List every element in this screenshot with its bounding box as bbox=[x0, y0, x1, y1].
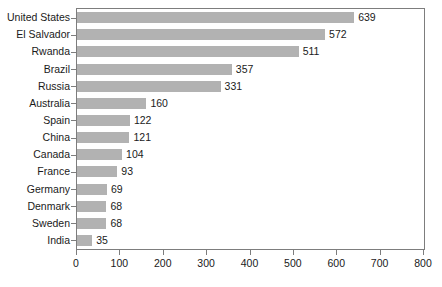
y-axis-tick bbox=[71, 206, 76, 207]
y-axis-tick bbox=[71, 120, 76, 121]
y-axis-label: India bbox=[0, 234, 70, 246]
bar bbox=[77, 184, 107, 195]
y-axis-tick bbox=[71, 240, 76, 241]
y-axis-label: Australia bbox=[0, 97, 70, 109]
y-axis-tick bbox=[71, 189, 76, 190]
bar-row: 68 bbox=[77, 218, 424, 229]
y-axis-category-labels: United StatesEl SalvadorRwandaBrazilRuss… bbox=[0, 9, 70, 249]
y-axis-label: Russia bbox=[0, 80, 70, 92]
bar-value-label: 93 bbox=[121, 164, 133, 178]
bar-value-label: 357 bbox=[236, 62, 254, 76]
x-axis-tick-label: 500 bbox=[284, 257, 302, 270]
x-axis-tick bbox=[76, 250, 77, 255]
y-axis-label: Rwanda bbox=[0, 45, 70, 57]
x-axis-tick-labels: 0100200300400500600700800 bbox=[76, 257, 425, 273]
y-axis-tick bbox=[71, 52, 76, 53]
y-axis-label: El Salvador bbox=[0, 28, 70, 40]
bar-row: 160 bbox=[77, 98, 424, 109]
y-axis-label: China bbox=[0, 131, 70, 143]
x-axis-tick-label: 800 bbox=[414, 257, 432, 270]
y-axis-label: Sweden bbox=[0, 217, 70, 229]
bar-row: 35 bbox=[77, 235, 424, 246]
bar-value-label: 639 bbox=[358, 10, 376, 24]
bar-value-label: 68 bbox=[110, 199, 122, 213]
x-axis-tick bbox=[119, 250, 120, 255]
y-axis-tick bbox=[71, 69, 76, 70]
y-axis-label: Canada bbox=[0, 148, 70, 160]
x-axis-tick bbox=[163, 250, 164, 255]
x-axis-tick-label: 100 bbox=[111, 257, 129, 270]
y-axis-label: France bbox=[0, 165, 70, 177]
bar bbox=[77, 98, 146, 109]
bar bbox=[77, 29, 325, 40]
x-axis-tick bbox=[336, 250, 337, 255]
y-axis-tick bbox=[71, 18, 76, 19]
bar bbox=[77, 12, 354, 23]
bar bbox=[77, 64, 232, 75]
x-axis-tick-label: 700 bbox=[371, 257, 389, 270]
y-axis-tick bbox=[71, 172, 76, 173]
bar-row: 511 bbox=[77, 46, 424, 57]
bar-row: 639 bbox=[77, 12, 424, 23]
x-axis-tick-label: 300 bbox=[197, 257, 215, 270]
bar-chart: United StatesEl SalvadorRwandaBrazilRuss… bbox=[0, 0, 442, 287]
y-axis-label: Spain bbox=[0, 114, 70, 126]
bar-value-label: 331 bbox=[225, 79, 243, 93]
y-axis-label: Brazil bbox=[0, 63, 70, 75]
bar-row: 69 bbox=[77, 184, 424, 195]
x-axis-tick bbox=[250, 250, 251, 255]
y-axis-tick bbox=[71, 103, 76, 104]
y-axis-tick bbox=[71, 35, 76, 36]
x-axis-tick bbox=[380, 250, 381, 255]
bar bbox=[77, 218, 106, 229]
bar-row: 93 bbox=[77, 166, 424, 177]
bar bbox=[77, 115, 130, 126]
bar-row: 122 bbox=[77, 115, 424, 126]
x-axis-tick-label: 600 bbox=[327, 257, 345, 270]
y-axis-tick bbox=[71, 86, 76, 87]
bar-value-label: 68 bbox=[110, 216, 122, 230]
y-axis-label: Germany bbox=[0, 183, 70, 195]
bar bbox=[77, 201, 106, 212]
bar bbox=[77, 132, 129, 143]
bar-row: 104 bbox=[77, 149, 424, 160]
bar-value-label: 122 bbox=[134, 113, 152, 127]
bar-row: 357 bbox=[77, 64, 424, 75]
bar-value-label: 572 bbox=[329, 27, 347, 41]
bar-value-label: 160 bbox=[150, 96, 168, 110]
y-axis-tick bbox=[71, 155, 76, 156]
bar bbox=[77, 81, 221, 92]
bar bbox=[77, 46, 299, 57]
bar bbox=[77, 149, 122, 160]
bar bbox=[77, 235, 92, 246]
bar-value-label: 35 bbox=[96, 233, 108, 247]
bar-row: 572 bbox=[77, 29, 424, 40]
x-axis-tick-label: 200 bbox=[154, 257, 172, 270]
x-axis-tick-label: 0 bbox=[73, 257, 79, 270]
bar-row: 68 bbox=[77, 201, 424, 212]
x-axis-tick bbox=[423, 250, 424, 255]
x-axis-tick-label: 400 bbox=[241, 257, 259, 270]
bar-value-label: 104 bbox=[126, 147, 144, 161]
bar-value-label: 69 bbox=[111, 182, 123, 196]
bar bbox=[77, 166, 117, 177]
x-axis-ticks bbox=[76, 250, 425, 256]
bars-layer: 6395725113573311601221211049369686835 bbox=[77, 9, 424, 249]
y-axis-tick bbox=[71, 223, 76, 224]
x-axis-tick bbox=[293, 250, 294, 255]
bar-row: 121 bbox=[77, 132, 424, 143]
bar-row: 331 bbox=[77, 81, 424, 92]
x-axis-tick bbox=[206, 250, 207, 255]
y-axis-tick bbox=[71, 138, 76, 139]
y-axis-label: Denmark bbox=[0, 200, 70, 212]
bar-value-label: 121 bbox=[133, 130, 151, 144]
y-axis-label: United States bbox=[0, 11, 70, 23]
bar-value-label: 511 bbox=[303, 44, 320, 58]
